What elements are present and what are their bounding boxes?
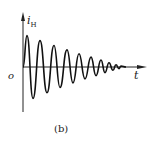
x-axis-arrow-icon: [137, 65, 147, 69]
figure-caption: (b): [54, 123, 68, 134]
y-axis-arrow-icon: [21, 12, 25, 21]
y-axis-label: iH: [27, 14, 37, 29]
origin-label: o: [8, 70, 14, 81]
x-axis-label: t: [134, 69, 138, 82]
damped-oscillation-plot: [0, 0, 152, 145]
